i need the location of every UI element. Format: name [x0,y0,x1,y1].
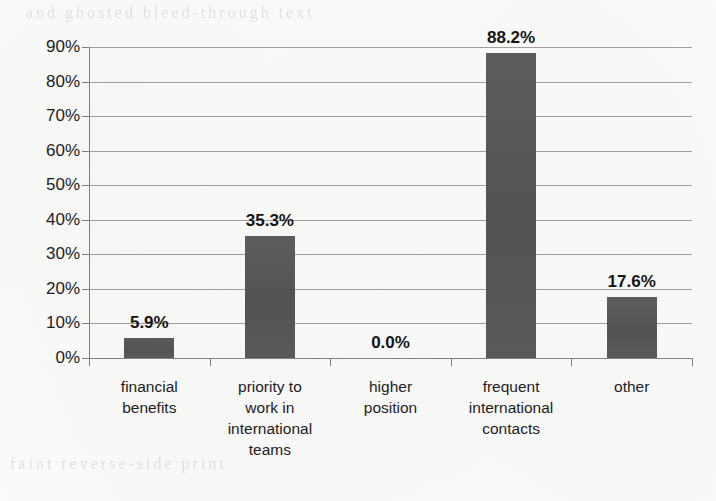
y-axis-tick-label: 10% [18,313,80,333]
gridline [89,151,692,152]
bar[interactable] [245,236,295,358]
gridline [89,82,692,83]
x-axis-tick-mark [210,358,211,366]
x-axis-category-label-line: contacts [445,418,577,439]
x-axis-category-label-line: work in [204,397,336,418]
x-axis-category-label: financialbenefits [83,376,215,418]
bar[interactable] [124,338,174,358]
x-axis-category-label: priority towork ininternationalteams [204,376,336,460]
y-axis-tick-label: 80% [18,72,80,92]
bar[interactable] [486,53,536,358]
bar-chart-screenshot: and ghosted bleed-through text faint rev… [0,0,716,501]
y-axis-tick-mark [82,151,89,152]
gridline [89,254,692,255]
bar-value-label: 5.9% [89,313,209,333]
x-axis-category-label-line: higher [325,376,457,397]
x-axis-category-label-line: benefits [83,397,215,418]
y-axis-tick-mark [82,289,89,290]
bar-value-label: 35.3% [210,211,330,231]
x-axis-category-label-line: international [445,397,577,418]
y-axis-tick-label: 20% [18,279,80,299]
y-axis-tick-label: 50% [18,175,80,195]
x-axis-category-label-line: other [566,376,698,397]
x-axis-category-label-line: financial [83,376,215,397]
gridline [89,220,692,221]
y-axis-tick-mark [82,47,89,48]
bar[interactable] [607,297,657,358]
y-axis-tick-mark [82,358,89,359]
x-axis-tick-mark [451,358,452,366]
y-axis-tick-label: 90% [18,37,80,57]
x-axis-baseline [89,358,692,359]
gridline [89,185,692,186]
x-axis-category-label-line: international [204,418,336,439]
x-axis-category-label-line: position [325,397,457,418]
y-axis-tick-mark [82,82,89,83]
y-axis-tick-mark [82,254,89,255]
y-axis-tick-label: 60% [18,141,80,161]
x-axis-tick-mark [330,358,331,366]
x-axis-category-label: other [566,376,698,397]
y-axis-tick-label: 0% [18,348,80,368]
x-axis-category-label: frequentinternationalcontacts [445,376,577,439]
y-axis-tick-label: 40% [18,210,80,230]
y-axis-tick-label: 30% [18,244,80,264]
bar-value-label: 0.0% [331,333,451,353]
y-axis-tick-mark [82,323,89,324]
bar-value-label: 17.6% [572,272,692,292]
plot-area [89,47,692,358]
y-axis-tick-labels: 0%10%20%30%40%50%60%70%80%90% [8,0,80,501]
y-axis-tick-mark [82,116,89,117]
gridline [89,116,692,117]
x-axis-category-label-line: priority to [204,376,336,397]
x-axis-tick-mark [692,358,693,366]
y-axis-tick-label: 70% [18,106,80,126]
x-axis-category-label-line: frequent [445,376,577,397]
x-axis-tick-mark [571,358,572,366]
bar-value-label: 88.2% [451,28,571,48]
x-axis-tick-mark [89,358,90,366]
y-axis-tick-mark [82,220,89,221]
x-axis-category-label: higherposition [325,376,457,418]
x-axis-category-label-line: teams [204,439,336,460]
y-axis-tick-mark [82,185,89,186]
gridline [89,47,692,48]
